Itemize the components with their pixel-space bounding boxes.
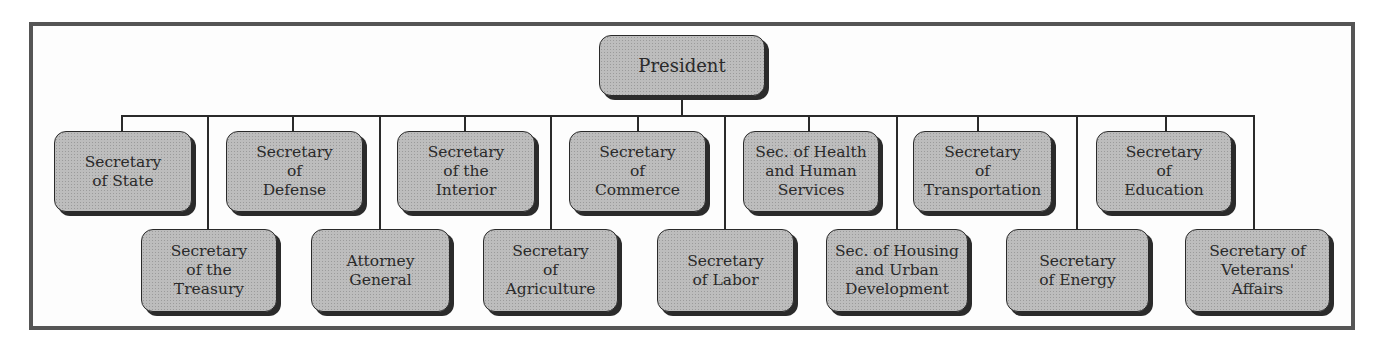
connector-commerce xyxy=(637,115,639,131)
node-label: Secretary of Defense xyxy=(256,143,333,200)
connector-state xyxy=(121,115,123,131)
node-secretary-of-labor: Secretary of Labor xyxy=(657,229,794,312)
connector-hhs xyxy=(808,115,810,131)
node-label: Secretary of Education xyxy=(1124,143,1204,200)
node-label: President xyxy=(638,56,725,75)
node-label: Secretary of the Treasury xyxy=(171,242,248,299)
node-label: Secretary of Agriculture xyxy=(506,242,596,299)
connector-interior xyxy=(464,115,466,131)
connector-energy xyxy=(1076,115,1078,229)
node-label: Secretary of Energy xyxy=(1039,252,1116,290)
node-label: Secretary of the Interior xyxy=(428,143,505,200)
node-secretary-of-agriculture: Secretary of Agriculture xyxy=(483,229,618,312)
node-label: Secretary of Commerce xyxy=(595,143,680,200)
connector-transportation xyxy=(977,115,979,131)
node-secretary-of-treasury: Secretary of the Treasury xyxy=(141,229,277,312)
connector-treasury xyxy=(207,115,209,229)
connector-education xyxy=(1165,115,1167,131)
node-president: President xyxy=(599,35,765,96)
node-label: Secretary of State xyxy=(85,153,162,191)
node-secretary-of-hhs: Sec. of Health and Human Services xyxy=(743,131,879,212)
connector-defense xyxy=(292,115,294,131)
node-label: Secretary of Labor xyxy=(687,252,764,290)
node-secretary-of-hud: Sec. of Housing and Urban Development xyxy=(826,229,968,312)
connector-attorney-general xyxy=(379,115,381,229)
node-label: Secretary of Veterans' Affairs xyxy=(1209,242,1306,299)
connector-labor xyxy=(724,115,726,229)
node-secretary-of-veterans-affairs: Secretary of Veterans' Affairs xyxy=(1185,229,1330,312)
connector-president-down xyxy=(681,96,683,115)
node-secretary-of-energy: Secretary of Energy xyxy=(1006,229,1149,312)
connector-hud xyxy=(896,115,898,229)
node-label: Sec. of Health and Human Services xyxy=(755,143,866,200)
node-secretary-of-state: Secretary of State xyxy=(54,131,192,212)
node-label: Attorney General xyxy=(346,252,414,290)
node-secretary-of-defense: Secretary of Defense xyxy=(226,131,363,212)
connector-main-bar xyxy=(121,115,1254,117)
node-secretary-of-commerce: Secretary of Commerce xyxy=(569,131,706,212)
node-label: Sec. of Housing and Urban Development xyxy=(835,242,959,299)
node-attorney-general: Attorney General xyxy=(311,229,450,312)
connector-veterans xyxy=(1253,115,1255,229)
node-secretary-of-interior: Secretary of the Interior xyxy=(397,131,535,212)
node-label: Secretary of Transportation xyxy=(924,143,1042,200)
connector-agriculture xyxy=(550,115,552,229)
node-secretary-of-education: Secretary of Education xyxy=(1096,131,1232,212)
node-secretary-of-transportation: Secretary of Transportation xyxy=(913,131,1052,212)
